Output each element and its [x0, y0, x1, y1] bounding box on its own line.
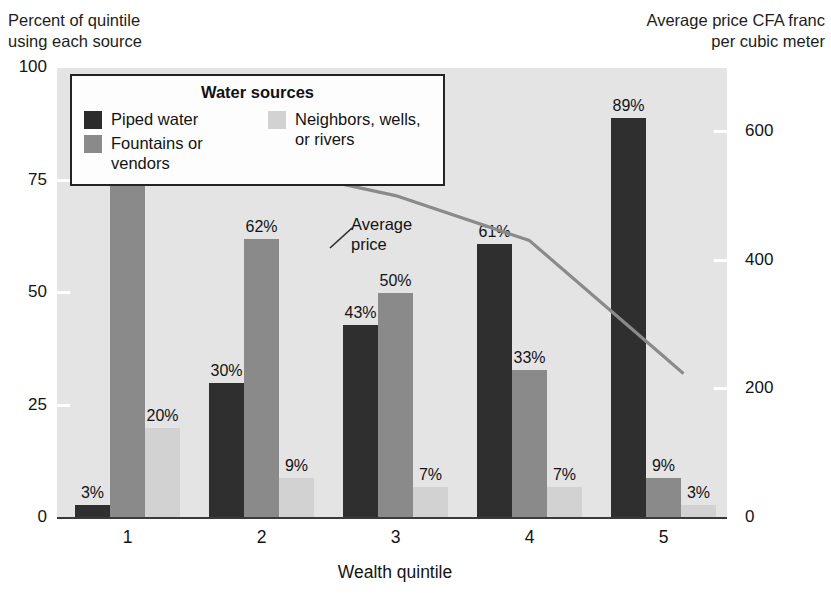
y-axis-tick-label-right: 200	[745, 379, 795, 396]
bar-value-label: 50%	[368, 273, 423, 289]
bar[interactable]	[512, 370, 547, 519]
x-axis-category-label: 4	[490, 528, 570, 546]
bar-value-label: 62%	[234, 219, 289, 235]
legend-title: Water sources	[72, 83, 443, 102]
bar[interactable]	[279, 478, 314, 519]
x-axis-category-label: 3	[356, 528, 436, 546]
y-axis-tick-label-left: 100	[0, 58, 47, 75]
y-axis-tick-label-right: 0	[745, 508, 795, 525]
bar-value-label: 9%	[269, 458, 324, 474]
average-price-annotation: Average price	[351, 214, 412, 254]
legend-label-piped-water: Piped water	[111, 109, 198, 129]
x-axis-title: Wealth quintile	[0, 562, 790, 583]
bar[interactable]	[110, 172, 145, 519]
bar-value-label: 61%	[467, 224, 522, 240]
legend-box: Water sources Piped water Fountains or v…	[70, 74, 445, 186]
bar[interactable]	[378, 293, 413, 518]
bar-value-label: 9%	[636, 458, 691, 474]
y-axis-tick-label-left: 25	[0, 396, 47, 413]
chart-root: Percent of quintile using each source Av…	[0, 0, 831, 594]
bar-value-label: 20%	[135, 408, 190, 424]
y-axis-tick-label-left: 50	[0, 283, 47, 300]
bar[interactable]	[209, 383, 244, 518]
bar-value-label: 33%	[502, 350, 557, 366]
bar[interactable]	[145, 428, 180, 518]
bar-value-label: 7%	[537, 467, 592, 483]
bar[interactable]	[244, 239, 279, 518]
legend-label-fountains-or-vendors: Fountains or vendors	[111, 133, 203, 173]
bar[interactable]	[75, 505, 110, 519]
left-axis-caption: Percent of quintile using each source	[8, 10, 142, 52]
bar[interactable]	[477, 244, 512, 519]
y-axis-tick-label-left: 0	[0, 508, 47, 525]
legend-column-right: Neighbors, wells, or rivers	[268, 109, 421, 153]
x-axis-category-label: 2	[222, 528, 302, 546]
bar[interactable]	[681, 505, 716, 519]
y-axis-tick-label-right: 600	[745, 122, 795, 139]
legend-item-neighbors-wells-rivers[interactable]: Neighbors, wells, or rivers	[268, 109, 421, 149]
legend-item-fountains-or-vendors[interactable]: Fountains or vendors	[84, 133, 203, 173]
x-axis-category-label: 1	[88, 528, 168, 546]
bar-value-label: 7%	[403, 467, 458, 483]
bar-value-label: 3%	[671, 485, 726, 501]
bar[interactable]	[343, 325, 378, 519]
legend-column-left: Piped water Fountains or vendors	[84, 109, 203, 177]
x-axis-baseline	[57, 517, 727, 519]
legend-swatch-fountains-icon	[84, 135, 102, 153]
bar-value-label: 89%	[601, 98, 656, 114]
x-axis-category-label: 5	[624, 528, 704, 546]
bar[interactable]	[547, 487, 582, 519]
bar[interactable]	[413, 487, 448, 519]
legend-swatch-piped-water-icon	[84, 111, 102, 129]
y-axis-tick-label-left: 75	[0, 171, 47, 188]
legend-swatch-neighbors-icon	[268, 111, 286, 129]
y-axis-tick-label-right: 400	[745, 251, 795, 268]
right-axis-caption: Average price CFA franc per cubic meter	[646, 10, 825, 52]
legend-label-neighbors-wells-rivers: Neighbors, wells, or rivers	[295, 109, 421, 149]
legend-item-piped-water[interactable]: Piped water	[84, 109, 198, 129]
